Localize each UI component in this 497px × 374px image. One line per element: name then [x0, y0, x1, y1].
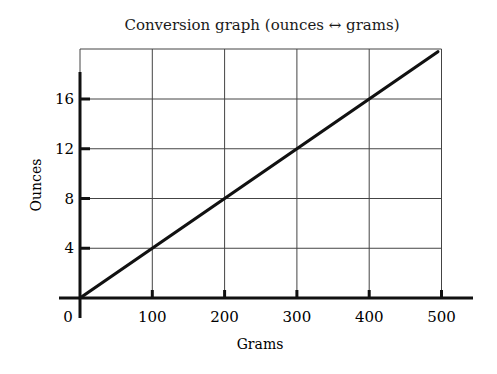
x-tick-label: 0 [63, 308, 73, 326]
axes [59, 72, 473, 318]
y-axis-ticks: 481216 [55, 90, 90, 257]
y-axis-label: Ounces [28, 159, 44, 212]
x-axis-label: Grams [237, 336, 284, 352]
y-tick-label: 8 [64, 190, 74, 208]
chart-title: Conversion graph (ounces ↔ grams) [124, 16, 399, 34]
x-tick-label: 400 [355, 308, 384, 326]
y-tick-label: 4 [64, 239, 74, 257]
x-tick-label: 500 [427, 308, 456, 326]
x-tick-label: 300 [283, 308, 312, 326]
x-tick-label: 200 [210, 308, 239, 326]
x-tick-label: 100 [138, 308, 167, 326]
conversion-chart: Conversion graph (ounces ↔ grams) 010020… [0, 0, 497, 374]
y-tick-label: 12 [55, 140, 74, 158]
conversion-line [80, 52, 438, 298]
x-axis-ticks: 0100200300400500 [63, 290, 456, 326]
y-tick-label: 16 [55, 90, 74, 108]
